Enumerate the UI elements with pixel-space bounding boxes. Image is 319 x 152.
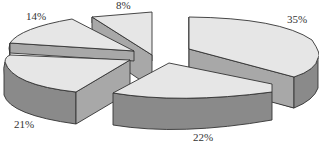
- label-22: 22%: [193, 131, 213, 143]
- label-14: 14%: [26, 10, 46, 22]
- label-21: 21%: [14, 118, 34, 130]
- slice-21: [4, 55, 130, 124]
- pie-chart: 35% 22% 21% 14% 8%: [0, 0, 319, 152]
- label-8: 8%: [116, 0, 131, 11]
- label-35: 35%: [287, 13, 307, 25]
